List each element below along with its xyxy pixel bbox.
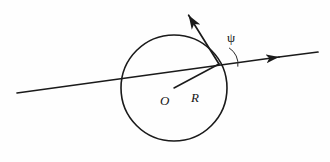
figure-container: O R ψ [0,0,330,162]
label-angle-psi: ψ [227,30,235,45]
label-center-o: O [160,93,170,108]
figure-background [0,0,330,162]
label-radius-r: R [190,90,199,105]
geometry-diagram: O R ψ [0,0,330,162]
